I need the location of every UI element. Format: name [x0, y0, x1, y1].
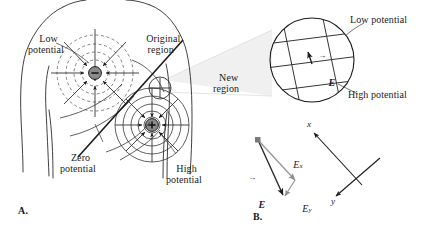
panel-b-label: B.: [253, 211, 263, 222]
label-low-potential-a: Low potential: [28, 22, 64, 55]
y-component-vector-arrow: [285, 180, 295, 196]
label-new-region: New region: [213, 61, 239, 94]
label-x-axis: x: [307, 119, 311, 130]
label-y-component: Ey: [297, 192, 312, 216]
label-zero-potential: Zero potential: [60, 141, 96, 174]
panel-b-vectors: [255, 133, 380, 196]
x-axis-arrow: [314, 133, 362, 185]
label-high-potential-a: High potential: [166, 152, 202, 185]
negative-charge: [89, 67, 102, 80]
original-region-circle: [149, 77, 171, 99]
label-low-potential-magnified: Low potential: [350, 14, 407, 25]
panel-a-label: A.: [18, 205, 28, 216]
label-original-region: Original region: [141, 22, 180, 55]
label-y-axis: y: [331, 196, 335, 207]
label-x-component: Ex: [288, 148, 303, 172]
label-high-potential-magnified: High potential: [348, 89, 407, 100]
label-field-vector-magnified: → E: [313, 44, 335, 99]
